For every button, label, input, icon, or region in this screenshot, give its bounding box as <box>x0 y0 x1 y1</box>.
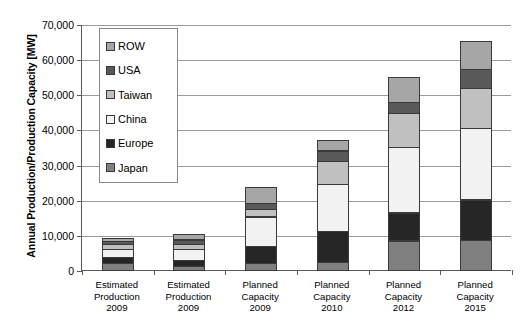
x-axis-label: PlannedCapacity2015 <box>430 279 520 314</box>
y-axis-tick-label: 0 <box>68 265 74 277</box>
y-axis-tick-mark <box>77 201 82 202</box>
legend-label: Taiwan <box>118 89 152 101</box>
bar-segment-china[interactable] <box>317 184 349 232</box>
legend-item-taiwan[interactable]: Taiwan <box>106 83 177 107</box>
x-axis-tick-mark <box>82 270 83 275</box>
bar-segment-japan[interactable] <box>460 240 492 271</box>
x-axis-tick-mark <box>297 270 298 275</box>
bar-segment-china[interactable] <box>245 217 277 248</box>
bar-segment-japan[interactable] <box>245 263 277 271</box>
legend-item-usa[interactable]: USA <box>106 58 177 82</box>
bar-segment-row[interactable] <box>460 41 492 70</box>
stacked-bar[interactable] <box>102 238 134 270</box>
y-axis-title: Annual Production/Production Capacity [M… <box>25 11 37 281</box>
bar-slot <box>440 25 512 270</box>
x-axis-tick-mark <box>440 270 441 275</box>
stacked-bar[interactable] <box>460 41 492 270</box>
stacked-bar-chart: Annual Production/Production Capacity [M… <box>0 0 522 333</box>
x-axis-tick-mark <box>225 270 226 275</box>
bar-slot <box>225 25 297 270</box>
stacked-bar[interactable] <box>317 140 349 270</box>
y-axis-tick-label: 50,000 <box>42 89 74 101</box>
y-axis-tick-mark <box>77 25 82 26</box>
legend-item-europe[interactable]: Europe <box>106 131 177 155</box>
legend-swatch-icon <box>106 66 115 75</box>
x-axis-tick-mark <box>512 270 513 275</box>
legend-swatch-icon <box>106 115 115 124</box>
bar-segment-china[interactable] <box>173 249 205 261</box>
bar-segment-taiwan[interactable] <box>460 88 492 128</box>
stacked-bar[interactable] <box>173 234 205 270</box>
legend-swatch-icon <box>106 42 115 51</box>
legend-label: China <box>118 113 147 125</box>
legend-label: Japan <box>118 162 148 174</box>
bar-segment-japan[interactable] <box>102 263 134 270</box>
y-axis-tick-mark <box>77 166 82 167</box>
y-axis-tick-label: 70,000 <box>42 19 74 31</box>
bar-segment-china[interactable] <box>388 147 420 213</box>
y-axis-tick-label: 20,000 <box>42 195 74 207</box>
stacked-bar[interactable] <box>245 187 277 270</box>
bar-segment-europe[interactable] <box>245 246 277 263</box>
x-axis-tick-mark <box>154 270 155 275</box>
y-axis-tick-label: 30,000 <box>42 160 74 172</box>
x-axis-label-line: 2015 <box>430 302 520 314</box>
stacked-bar[interactable] <box>388 77 420 270</box>
x-axis-tick-mark <box>369 270 370 275</box>
legend-label: ROW <box>118 40 145 52</box>
legend-swatch-icon <box>106 139 115 148</box>
bar-slot <box>297 25 369 270</box>
bar-segment-japan[interactable] <box>173 266 205 271</box>
bar-segment-row[interactable] <box>245 187 277 204</box>
legend-label: USA <box>118 64 141 76</box>
bar-segment-europe[interactable] <box>317 231 349 263</box>
y-axis-tick-mark <box>77 271 82 272</box>
bar-segment-japan[interactable] <box>388 241 420 271</box>
bar-segment-europe[interactable] <box>460 200 492 241</box>
y-axis-tick-mark <box>77 95 82 96</box>
bar-segment-row[interactable] <box>388 77 420 103</box>
bar-segment-europe[interactable] <box>388 213 420 242</box>
bar-slot <box>369 25 441 270</box>
y-axis-tick-label: 10,000 <box>42 230 74 242</box>
bar-segment-china[interactable] <box>460 128 492 200</box>
bar-segment-taiwan[interactable] <box>317 161 349 184</box>
bar-segment-usa[interactable] <box>460 69 492 89</box>
y-axis-tick-mark <box>77 236 82 237</box>
x-axis-label-line: Capacity <box>430 291 520 303</box>
chart-legend: ROWUSATaiwanChinaEuropeJapan <box>99 28 178 183</box>
legend-label: Europe <box>118 137 153 149</box>
y-axis-tick-mark <box>77 130 82 131</box>
legend-swatch-icon <box>106 90 115 99</box>
y-axis-tick-mark <box>77 60 82 61</box>
legend-item-row[interactable]: ROW <box>106 34 177 58</box>
legend-item-china[interactable]: China <box>106 107 177 131</box>
x-axis-label-line: Planned <box>430 279 520 291</box>
legend-swatch-icon <box>106 163 115 172</box>
bar-segment-japan[interactable] <box>317 262 349 270</box>
y-axis-tick-label: 60,000 <box>42 54 74 66</box>
y-axis-tick-label: 40,000 <box>42 124 74 136</box>
bar-segment-taiwan[interactable] <box>388 113 420 148</box>
bar-segment-row[interactable] <box>317 140 349 152</box>
legend-item-japan[interactable]: Japan <box>106 155 177 179</box>
